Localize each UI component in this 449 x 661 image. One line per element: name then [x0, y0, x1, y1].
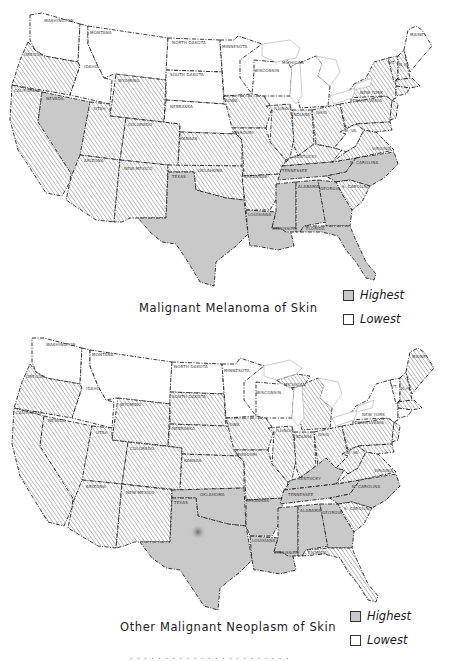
svg-text:ILLINOIS: ILLINOIS — [276, 428, 295, 433]
svg-text:OREGON: OREGON — [26, 374, 45, 379]
legend-swatch-lowest — [343, 314, 354, 325]
legend-label-highest: Highest — [360, 288, 404, 302]
svg-text:MINNESOTA: MINNESOTA — [224, 368, 250, 373]
svg-text:WYOMING: WYOMING — [118, 78, 139, 83]
map-title: Malignant Melanoma of Skin — [139, 301, 318, 315]
svg-text:MICHIGAN: MICHIGAN — [282, 60, 304, 65]
svg-text:N.H.: N.H. — [399, 62, 408, 67]
svg-text:WISCONSIN: WISCONSIN — [256, 390, 281, 395]
legend-label-lowest: Lowest — [367, 633, 407, 647]
svg-text:VIRGINIA: VIRGINIA — [374, 468, 394, 473]
svg-text:KENTUCKY: KENTUCKY — [294, 154, 317, 159]
svg-text:N.H.: N.H. — [401, 386, 410, 391]
svg-text:IOWA: IOWA — [226, 98, 238, 103]
svg-text:WASHINGTON: WASHINGTON — [46, 342, 76, 347]
svg-text:KANSAS: KANSAS — [184, 458, 202, 463]
svg-text:NEW MEXICO: NEW MEXICO — [124, 166, 153, 171]
svg-text:MONTANA: MONTANA — [92, 352, 114, 357]
svg-text:ALABAMA: ALABAMA — [300, 508, 321, 513]
state-arkansas — [242, 174, 280, 210]
svg-text:NEVADA: NEVADA — [46, 96, 64, 101]
svg-text:NEBRASKA: NEBRASKA — [170, 104, 193, 109]
svg-text:TENNESSEE: TENNESSEE — [281, 168, 308, 173]
svg-text:ARKANSAS: ARKANSAS — [246, 498, 270, 503]
svg-text:IDAHO: IDAHO — [84, 64, 98, 69]
legend-swatch-highest — [343, 290, 354, 301]
svg-text:WISCONSIN: WISCONSIN — [254, 68, 279, 73]
svg-text:OKLAHOMA: OKLAHOMA — [198, 168, 223, 173]
map-legend: Highest Lowest — [350, 604, 411, 652]
svg-text:MONTANA: MONTANA — [90, 30, 112, 35]
legend-item-lowest: Lowest — [343, 307, 404, 331]
svg-text:CALIFORNIA: CALIFORNIA — [14, 88, 40, 93]
legend-swatch-highest — [350, 611, 361, 622]
map-panel-melanoma: WASHINGTON OREGON CALIFORNIA NEVADA IDAH… — [0, 0, 449, 330]
svg-text:NEBRASKA: NEBRASKA — [172, 426, 195, 431]
legend-label-highest: Highest — [367, 609, 411, 623]
map-title: Other Malignant Neoplasm of Skin — [120, 620, 336, 634]
svg-text:FLORIDA: FLORIDA — [306, 226, 325, 231]
svg-text:TEXAS: TEXAS — [173, 500, 188, 505]
svg-text:ARIZONA: ARIZONA — [86, 484, 106, 489]
svg-text:VT.: VT. — [391, 384, 398, 389]
svg-text:NORTH DAKOTA: NORTH DAKOTA — [174, 364, 208, 369]
svg-text:MISSISSIPPI: MISSISSIPPI — [274, 550, 299, 555]
svg-text:S. CAROLINA: S. CAROLINA — [342, 184, 370, 189]
legend-item-highest: Highest — [350, 604, 411, 628]
svg-text:NEVADA: NEVADA — [48, 418, 66, 423]
svg-text:S. CAROLINA: S. CAROLINA — [344, 506, 372, 511]
svg-text:OREGON: OREGON — [24, 52, 43, 57]
svg-text:CALIFORNIA: CALIFORNIA — [16, 410, 42, 415]
states — [10, 13, 432, 286]
state-florida — [302, 548, 378, 602]
svg-text:INDIANA: INDIANA — [294, 434, 312, 439]
svg-text:COLORADO: COLORADO — [128, 122, 152, 127]
svg-text:NEW MEXICO: NEW MEXICO — [126, 490, 155, 495]
svg-text:FLORIDA: FLORIDA — [308, 550, 327, 555]
svg-text:MICHIGAN: MICHIGAN — [284, 382, 306, 387]
svg-text:NORTH DAKOTA: NORTH DAKOTA — [172, 40, 206, 45]
svg-text:UTAH: UTAH — [94, 106, 106, 111]
svg-text:MISSISSIPPI: MISSISSIPPI — [272, 226, 297, 231]
svg-text:MISSOURI: MISSOURI — [236, 452, 257, 457]
svg-text:TENNESSEE: TENNESSEE — [287, 492, 314, 497]
svg-text:ILLINOIS: ILLINOIS — [274, 106, 293, 111]
legend-label-lowest: Lowest — [360, 312, 400, 326]
svg-text:VIRGINIA: VIRGINIA — [372, 146, 392, 151]
states — [12, 338, 434, 610]
map-panel-other-neoplasm: WASHINGTON OREGON CALIFORNIA NEVADA IDAH… — [0, 330, 449, 661]
svg-text:PENNSYLVANIA: PENNSYLVANIA — [352, 420, 384, 425]
texas-dark-spot — [190, 524, 206, 540]
svg-text:ARIZONA: ARIZONA — [84, 158, 104, 163]
svg-text:W. VA.: W. VA. — [344, 128, 358, 133]
legend-item-highest: Highest — [343, 283, 404, 307]
svg-text:OHIO: OHIO — [318, 432, 329, 437]
state-connecticut — [398, 408, 412, 418]
svg-text:ARKANSAS: ARKANSAS — [244, 174, 268, 179]
state-florida — [300, 226, 376, 280]
svg-text:KENTUCKY: KENTUCKY — [298, 476, 321, 481]
svg-text:WASHINGTON: WASHINGTON — [44, 18, 74, 23]
svg-text:SOUTH DAKOTA: SOUTH DAKOTA — [172, 394, 206, 399]
svg-text:WYOMING: WYOMING — [120, 402, 141, 407]
svg-text:UTAH: UTAH — [96, 430, 108, 435]
svg-text:KANSAS: KANSAS — [180, 136, 198, 141]
svg-text:VT.: VT. — [389, 60, 396, 65]
state-mississippi — [272, 182, 296, 232]
svg-text:COLORADO: COLORADO — [130, 446, 154, 451]
svg-text:N. CAROLINA: N. CAROLINA — [352, 484, 380, 489]
svg-text:MAINE: MAINE — [410, 32, 424, 37]
svg-text:LOUISIANA: LOUISIANA — [248, 212, 271, 217]
svg-text:N. CAROLINA: N. CAROLINA — [350, 160, 378, 165]
svg-text:TEXAS: TEXAS — [171, 174, 186, 179]
svg-text:OKLAHOMA: OKLAHOMA — [200, 492, 225, 497]
svg-text:GEORGIA: GEORGIA — [322, 510, 342, 515]
state-connecticut — [396, 86, 410, 96]
svg-text:IDAHO: IDAHO — [86, 386, 100, 391]
svg-text:W. VA.: W. VA. — [346, 450, 360, 455]
svg-text:OHIO: OHIO — [316, 110, 327, 115]
svg-text:LOUISIANA: LOUISIANA — [252, 538, 275, 543]
svg-text:MISSOURI: MISSOURI — [232, 130, 253, 135]
svg-text:SOUTH DAKOTA: SOUTH DAKOTA — [170, 72, 204, 77]
us-map-melanoma: WASHINGTON OREGON CALIFORNIA NEVADA IDAH… — [0, 0, 449, 330]
